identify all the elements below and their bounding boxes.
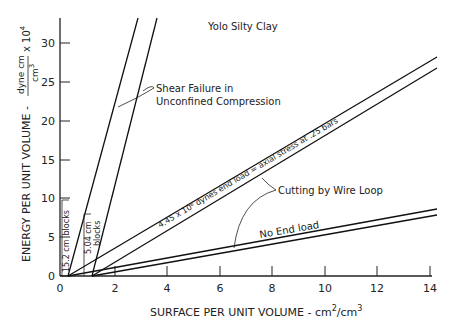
x-ticks xyxy=(115,266,430,276)
shear-arrow xyxy=(118,88,154,107)
wire-loop-arrow-up xyxy=(262,178,276,190)
shear-annotation-2: Unconfined Compression xyxy=(156,96,281,107)
svg-text:10: 10 xyxy=(318,282,332,295)
y-tick-labels: 0 5 10 15 20 25 30 xyxy=(41,37,55,283)
svg-text:8: 8 xyxy=(269,282,276,295)
svg-text:4: 4 xyxy=(164,282,171,295)
svg-text:6: 6 xyxy=(217,282,224,295)
svg-text:ENERGY PER UNIT VOLUME -: ENERGY PER UNIT VOLUME - xyxy=(20,106,33,262)
x-axis-label: SURFACE PER UNIT VOLUME - cm2/cm3 xyxy=(150,304,362,319)
block1-label: 15.2 cmblocks xyxy=(62,210,71,272)
data-lines xyxy=(68,18,437,276)
x-tick-labels: 0 2 4 6 8 10 12 14 xyxy=(57,282,438,295)
shear-line-15cm xyxy=(68,18,138,276)
svg-text:14: 14 xyxy=(423,282,437,295)
wire-loop-annotation: Cutting by Wire Loop xyxy=(278,185,383,196)
svg-text:25: 25 xyxy=(41,76,55,89)
block2-label-b: blocks xyxy=(93,221,102,246)
svg-text:30: 30 xyxy=(41,37,55,50)
shear-annotation-1: Shear Failure in xyxy=(156,83,233,94)
svg-text:10: 10 xyxy=(41,192,55,205)
svg-text:0: 0 xyxy=(48,270,55,283)
svg-text:15: 15 xyxy=(41,154,55,167)
chart-title: Yolo Silty Clay xyxy=(207,21,278,32)
y-axis-label: ENERGY PER UNIT VOLUME - dyne cm cm3 x 1… xyxy=(16,25,40,262)
svg-text:5: 5 xyxy=(48,231,55,244)
chart: 0 5 10 15 20 25 30 0 2 4 6 8 10 12 14 xyxy=(0,0,454,328)
svg-text:12: 12 xyxy=(370,282,384,295)
svg-text:20: 20 xyxy=(41,115,55,128)
svg-text:x 104: x 104 xyxy=(19,25,32,52)
svg-text:0: 0 xyxy=(57,282,64,295)
svg-text:2: 2 xyxy=(112,282,119,295)
svg-text:cm3: cm3 xyxy=(28,64,40,82)
svg-text:dyne cm: dyne cm xyxy=(16,55,26,94)
block2-label-a: 5.04 cm xyxy=(84,221,93,254)
endload-annotation: 4.45 x 10⁶ dynes end load = axial stress… xyxy=(156,116,339,230)
